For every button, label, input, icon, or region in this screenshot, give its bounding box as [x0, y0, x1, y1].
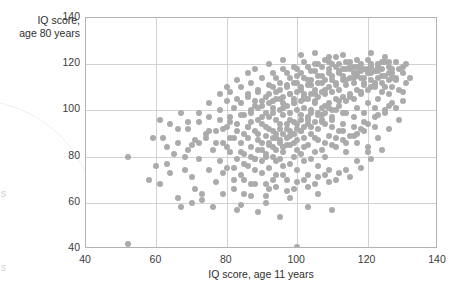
data-point: [231, 177, 237, 183]
data-point: [319, 147, 325, 153]
data-point: [182, 167, 188, 173]
data-point: [206, 114, 212, 120]
data-point: [248, 80, 254, 86]
data-point: [185, 147, 191, 153]
data-point: [365, 100, 371, 106]
data-point: [340, 73, 346, 79]
data-point: [336, 170, 342, 176]
data-point: [326, 133, 332, 139]
data-point: [386, 103, 392, 109]
data-point: [365, 149, 371, 155]
data-point: [263, 94, 269, 100]
data-point: [266, 82, 272, 88]
data-point: [255, 209, 261, 215]
data-point: [224, 98, 230, 104]
data-point: [266, 165, 272, 171]
data-point: [178, 204, 184, 210]
data-point: [277, 121, 283, 127]
data-point: [245, 124, 251, 130]
data-point: [396, 117, 402, 123]
data-point: [220, 126, 226, 132]
data-point: [326, 105, 332, 111]
data-point: [196, 119, 202, 125]
data-point: [333, 135, 339, 141]
data-point: [259, 158, 265, 164]
data-point: [336, 98, 342, 104]
data-point: [393, 59, 399, 65]
data-point: [389, 84, 395, 90]
data-point: [375, 96, 381, 102]
data-point: [185, 119, 191, 125]
data-point: [217, 107, 223, 113]
data-point: [280, 163, 286, 169]
data-point: [182, 154, 188, 160]
data-point: [245, 135, 251, 141]
data-point: [354, 57, 360, 63]
data-point: [210, 147, 216, 153]
data-point: [354, 131, 360, 137]
data-point: [298, 128, 304, 134]
data-point: [284, 126, 290, 132]
margin-glyph-s-lower: s: [1, 262, 6, 273]
data-point: [382, 110, 388, 116]
data-point: [287, 110, 293, 116]
data-point: [291, 154, 297, 160]
data-point: [361, 128, 367, 134]
data-point: [238, 202, 244, 208]
x-axis-title: IQ score, age 11 years: [85, 268, 437, 280]
data-point: [234, 156, 240, 162]
data-point: [160, 135, 166, 141]
data-point: [231, 186, 237, 192]
data-point: [217, 117, 223, 123]
data-point: [213, 128, 219, 134]
data-point: [315, 191, 321, 197]
data-point: [284, 84, 290, 90]
data-point: [294, 66, 300, 72]
data-point: [312, 181, 318, 187]
data-point: [164, 144, 170, 150]
data-point: [358, 89, 364, 95]
data-point: [280, 57, 286, 63]
data-point: [231, 105, 237, 111]
data-point: [368, 50, 374, 56]
data-point: [308, 156, 314, 162]
data-point: [379, 59, 385, 65]
data-point: [227, 119, 233, 125]
data-point: [298, 52, 304, 58]
data-point: [329, 207, 335, 213]
data-point: [322, 140, 328, 146]
data-point: [343, 140, 349, 146]
data-point: [125, 241, 131, 247]
data-point: [351, 114, 357, 120]
x-tick-label: 60: [135, 253, 175, 265]
data-point: [291, 140, 297, 146]
data-point: [241, 161, 247, 167]
data-point: [312, 91, 318, 97]
data-point: [287, 117, 293, 123]
data-point: [167, 121, 173, 127]
data-point: [403, 80, 409, 86]
data-point: [273, 184, 279, 190]
data-point: [298, 151, 304, 157]
data-point: [354, 140, 360, 146]
y-tick-label: 40: [52, 241, 80, 253]
data-point: [270, 135, 276, 141]
data-point: [157, 117, 163, 123]
data-point: [234, 77, 240, 83]
data-point: [157, 181, 163, 187]
y-tick-label: 120: [52, 56, 80, 68]
data-point: [333, 107, 339, 113]
data-point: [125, 154, 131, 160]
data-point: [252, 167, 258, 173]
data-point: [189, 174, 195, 180]
data-point: [199, 191, 205, 197]
data-point: [294, 80, 300, 86]
data-point: [305, 117, 311, 123]
data-point: [277, 214, 283, 220]
data-point: [213, 179, 219, 185]
data-point: [322, 172, 328, 178]
x-tick-label: 140: [417, 253, 457, 265]
data-point: [333, 54, 339, 60]
data-point: [326, 179, 332, 185]
x-tick-label: 120: [347, 253, 387, 265]
